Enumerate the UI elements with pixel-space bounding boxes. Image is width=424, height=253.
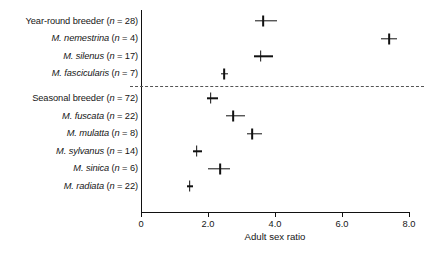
point-marker [262, 16, 264, 27]
point-marker [210, 93, 212, 104]
error-bar [254, 55, 273, 56]
row-label: M. nemestrina (n = 4) [51, 33, 138, 43]
row-label-species: M. nemestrina [51, 33, 111, 43]
row-label: M. sylvanus (n = 14) [56, 146, 138, 156]
x-axis-title: Adult sex ratio [141, 231, 409, 242]
x-tick-label: 4.0 [269, 219, 282, 230]
point-marker [189, 181, 191, 192]
row-label-species: Seasonal breeder [32, 93, 106, 103]
row-label: Seasonal breeder (n = 72) [32, 93, 138, 103]
row-label: M. sinica (n = 6) [73, 163, 138, 173]
row-label-species: M. fascicularis [52, 68, 112, 78]
error-bar [255, 20, 277, 21]
error-bar [247, 133, 262, 134]
row-label-sample-size: (n = 17) [106, 51, 138, 61]
y-axis-spine [141, 10, 142, 213]
point-marker [260, 51, 262, 62]
point-marker [251, 128, 253, 139]
row-label: M. fascicularis (n = 7) [52, 68, 138, 78]
row-label: M. silenus (n = 17) [63, 51, 138, 61]
x-tick [141, 212, 142, 217]
x-tick-label: 8.0 [403, 219, 416, 230]
row-label: Year-round breeder (n = 28) [26, 16, 138, 26]
row-label-species: M. sinica [73, 163, 111, 173]
point-marker [223, 68, 225, 79]
row-label-species: M. fuscata [62, 111, 106, 121]
row-label-sample-size: (n = 7) [112, 68, 138, 78]
forest-plot-figure: Year-round breeder (n = 28)M. nemestrina… [0, 0, 424, 253]
row-label-species: M. silenus [63, 51, 106, 61]
x-tick [342, 212, 343, 217]
x-tick [208, 212, 209, 217]
error-bar [226, 115, 244, 116]
row-label-species: M. radiata [64, 181, 107, 191]
row-label: M. fuscata (n = 22) [62, 111, 138, 121]
row-label-column: Year-round breeder (n = 28)M. nemestrina… [0, 0, 141, 253]
plot-area: 02.04.06.08.0 [141, 10, 424, 213]
point-marker [388, 33, 390, 44]
x-tick-label: 0 [138, 219, 143, 230]
row-label-species: M. mulatta [67, 128, 112, 138]
row-label-sample-size: (n = 6) [112, 163, 138, 173]
row-label-sample-size: (n = 14) [106, 146, 138, 156]
breeder-group-divider [130, 86, 424, 87]
point-marker [232, 111, 234, 122]
error-bar [207, 98, 218, 99]
row-label: M. radiata (n = 22) [64, 181, 138, 191]
row-label-sample-size: (n = 22) [106, 181, 138, 191]
row-label-sample-size: (n = 28) [106, 16, 138, 26]
row-label-sample-size: (n = 8) [112, 128, 138, 138]
row-label-species: M. sylvanus [56, 146, 106, 156]
row-label-sample-size: (n = 4) [112, 33, 138, 43]
row-label-sample-size: (n = 72) [106, 93, 138, 103]
point-marker [219, 163, 221, 174]
x-tick-label: 2.0 [202, 219, 215, 230]
row-label-sample-size: (n = 22) [106, 111, 138, 121]
x-tick [275, 212, 276, 217]
x-tick-label: 6.0 [336, 219, 349, 230]
row-label-species: Year-round breeder [26, 16, 107, 26]
row-label: M. mulatta (n = 8) [67, 128, 138, 138]
x-tick [409, 212, 410, 217]
point-marker [196, 146, 198, 157]
